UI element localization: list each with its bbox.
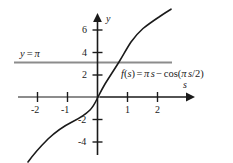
y-axis-label: y xyxy=(106,14,110,24)
x-axis-arrowhead xyxy=(186,93,195,102)
x-tick-label--2: -2 xyxy=(31,105,39,115)
pi-line-lhs: y xyxy=(20,48,25,59)
x-tick-label--1: -1 xyxy=(61,105,69,115)
function-equals: = xyxy=(137,68,143,79)
function-close-paren-2: ) xyxy=(200,68,204,79)
x-axis-label: s xyxy=(183,80,187,90)
function-minus: − xyxy=(156,68,162,79)
figure-container: y s 6 4 2 -2 -4 -2 -1 1 2 y=π f(s)=πs−co… xyxy=(0,0,233,163)
function-pi-1: π xyxy=(144,68,149,79)
y-axis-arrowhead xyxy=(93,13,102,22)
function-cos: cos xyxy=(164,68,178,79)
x-tick-label-2: 2 xyxy=(155,105,160,115)
function-annotation: f(s)=πs−cos(πs/2) xyxy=(121,69,204,80)
function-pi-2: π xyxy=(181,68,186,79)
y-tick-label-6: 6 xyxy=(82,25,87,35)
pi-line-annotation: y=π xyxy=(20,49,40,60)
y-tick-label-2: 2 xyxy=(82,70,87,80)
function-curve xyxy=(28,9,171,162)
pi-line-rhs: π xyxy=(35,48,40,59)
y-tick-label-4: 4 xyxy=(82,48,87,58)
y-tick-label--2: -2 xyxy=(78,115,86,125)
pi-line-equals: = xyxy=(27,48,33,59)
function-close-paren: ) xyxy=(132,68,136,79)
x-tick-label-1: 1 xyxy=(125,105,130,115)
y-tick-label--4: -4 xyxy=(78,137,86,147)
function-s-1: s xyxy=(151,68,155,79)
plot-canvas xyxy=(0,0,233,163)
